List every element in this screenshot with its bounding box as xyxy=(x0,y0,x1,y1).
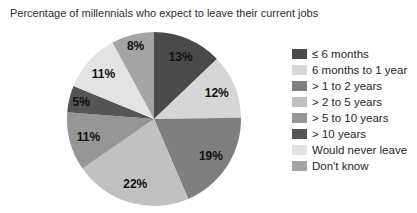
pie-slice-label: 13% xyxy=(169,50,193,64)
legend-item: Don't know xyxy=(292,158,407,174)
legend-label: 6 months to 1 year xyxy=(312,64,407,77)
legend-label: > 1 to 2 years xyxy=(312,80,382,93)
legend-swatch xyxy=(292,129,307,139)
pie-slice-label: 11% xyxy=(92,67,116,81)
pie-slice-label: 5% xyxy=(73,95,91,109)
pie-slice-label: 11% xyxy=(77,130,101,144)
legend-item: > 10 years xyxy=(292,126,407,142)
legend-item: > 2 to 5 years xyxy=(292,94,407,110)
legend-item: > 5 to 10 years xyxy=(292,110,407,126)
legend-swatch xyxy=(292,113,307,123)
pie-slice-label: 12% xyxy=(205,86,229,100)
legend-label: > 2 to 5 years xyxy=(312,96,382,109)
legend-swatch xyxy=(292,65,307,75)
legend-item: ≤ 6 months xyxy=(292,46,407,62)
pie-slice-label: 8% xyxy=(127,39,145,53)
legend-label: ≤ 6 months xyxy=(312,48,369,61)
legend-item: > 1 to 2 years xyxy=(292,78,407,94)
legend-swatch xyxy=(292,145,307,155)
legend-label: Would never leave xyxy=(312,144,407,157)
legend-swatch xyxy=(292,49,307,59)
legend-label: > 10 years xyxy=(312,128,366,141)
legend: ≤ 6 months6 months to 1 year> 1 to 2 yea… xyxy=(292,46,407,174)
legend-swatch xyxy=(292,97,307,107)
pie-slice-label: 19% xyxy=(199,149,223,163)
legend-item: Would never leave xyxy=(292,142,407,158)
pie-slice-label: 22% xyxy=(123,177,147,191)
chart-container: Percentage of millennials who expect to … xyxy=(0,0,417,213)
legend-label: Don't know xyxy=(312,160,369,173)
legend-swatch xyxy=(292,161,307,171)
legend-item: 6 months to 1 year xyxy=(292,62,407,78)
legend-label: > 5 to 10 years xyxy=(312,112,388,125)
legend-swatch xyxy=(292,81,307,91)
